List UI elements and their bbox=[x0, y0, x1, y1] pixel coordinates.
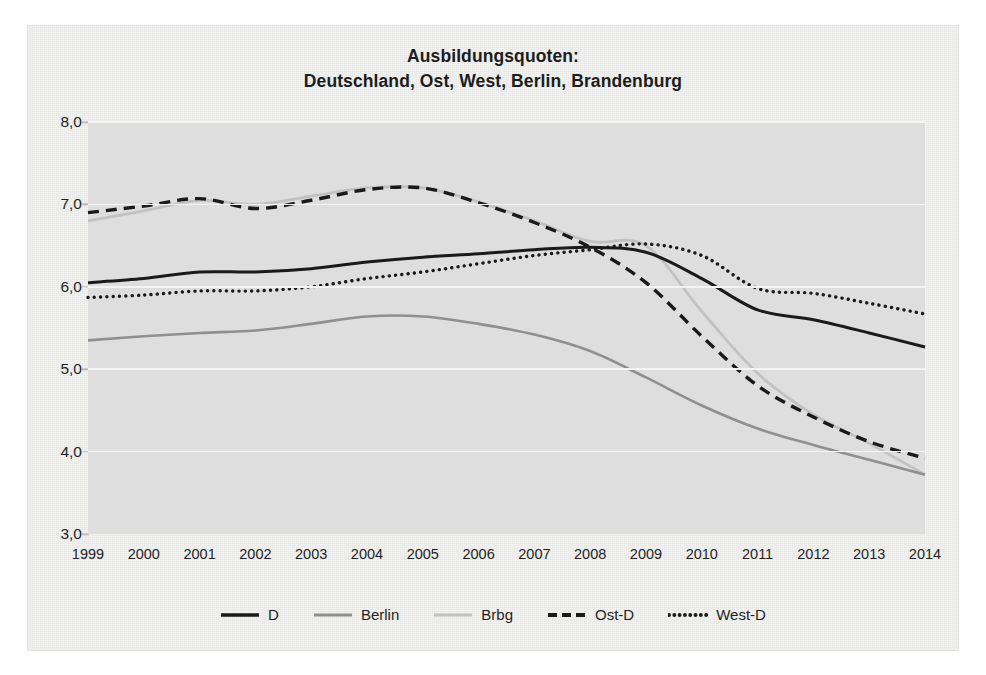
legend-item-berlin[interactable]: Berlin bbox=[313, 606, 399, 623]
legend-item-west-d[interactable]: West-D bbox=[668, 606, 766, 623]
chart-legend: DBerlinBrbgOst-DWest-D bbox=[28, 606, 958, 623]
legend-label: D bbox=[268, 606, 279, 623]
series-line-brbg bbox=[88, 187, 925, 475]
chart-card: Ausbildungsquoten: Deutschland, Ost, Wes… bbox=[28, 26, 958, 650]
y-axis-tick-label: 5,0 bbox=[36, 360, 82, 378]
series-line-ost-d bbox=[88, 187, 925, 458]
x-axis-tick-label: 2009 bbox=[630, 546, 662, 562]
legend-label: Brbg bbox=[481, 606, 513, 623]
gridline bbox=[88, 286, 925, 288]
solid-black-line-icon bbox=[220, 609, 260, 621]
solid-lightgray-line-icon bbox=[433, 609, 473, 621]
y-axis-tick-label: 6,0 bbox=[36, 278, 82, 296]
x-axis-tick-label: 2006 bbox=[462, 546, 494, 562]
x-axis-tick-label: 2007 bbox=[518, 546, 550, 562]
x-axis-tick-label: 2003 bbox=[295, 546, 327, 562]
x-axis: 1999200020012002200320042005200620072008… bbox=[88, 542, 925, 568]
legend-item-d[interactable]: D bbox=[220, 606, 279, 623]
y-axis: 8,07,06,05,04,03,0 bbox=[28, 122, 82, 534]
x-axis-tick-label: 2000 bbox=[128, 546, 160, 562]
y-axis-tick-label: 4,0 bbox=[36, 443, 82, 461]
y-axis-tick-label: 7,0 bbox=[36, 195, 82, 213]
legend-item-ost-d[interactable]: Ost-D bbox=[547, 606, 634, 623]
solid-gray-line-icon bbox=[313, 609, 353, 621]
dotted-black-line-icon bbox=[668, 609, 708, 621]
x-axis-tick-label: 2012 bbox=[797, 546, 829, 562]
x-axis-tick-label: 2002 bbox=[239, 546, 271, 562]
x-axis-tick-label: 1999 bbox=[72, 546, 104, 562]
x-axis-tick-label: 2013 bbox=[853, 546, 885, 562]
x-axis-tick-label: 2001 bbox=[183, 546, 215, 562]
legend-label: West-D bbox=[716, 606, 766, 623]
dashed-black-line-icon bbox=[547, 609, 587, 621]
plot-area bbox=[88, 122, 925, 534]
chart-figure: Ausbildungsquoten: Deutschland, Ost, Wes… bbox=[0, 0, 986, 675]
gridline bbox=[88, 451, 925, 453]
gridline bbox=[88, 204, 925, 206]
x-axis-tick-label: 2004 bbox=[351, 546, 383, 562]
series-line-west-d bbox=[88, 244, 925, 314]
chart-title-line2: Deutschland, Ost, West, Berlin, Brandenb… bbox=[28, 69, 958, 94]
x-axis-tick-label: 2010 bbox=[686, 546, 718, 562]
chart-title: Ausbildungsquoten: Deutschland, Ost, Wes… bbox=[28, 44, 958, 94]
x-axis-tick-label: 2011 bbox=[742, 546, 773, 562]
legend-label: Ost-D bbox=[595, 606, 634, 623]
gridline bbox=[88, 121, 925, 123]
y-axis-tick-label: 3,0 bbox=[36, 525, 82, 543]
legend-item-brbg[interactable]: Brbg bbox=[433, 606, 513, 623]
legend-label: Berlin bbox=[361, 606, 399, 623]
series-layer bbox=[88, 122, 925, 534]
x-axis-tick-label: 2014 bbox=[909, 546, 941, 562]
gridline bbox=[88, 368, 925, 370]
x-axis-tick-label: 2008 bbox=[574, 546, 606, 562]
x-axis-tick-label: 2005 bbox=[407, 546, 439, 562]
chart-title-line1: Ausbildungsquoten: bbox=[407, 46, 579, 66]
y-axis-tick-label: 8,0 bbox=[36, 113, 82, 131]
